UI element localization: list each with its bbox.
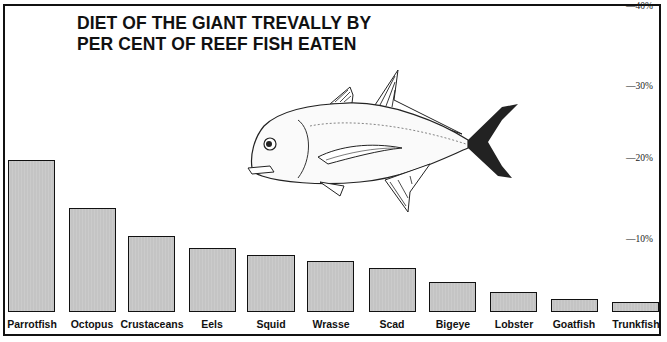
y-tick-40: —40% [626, 1, 653, 11]
y-tick-20: —20% [626, 153, 653, 163]
chart-title: DIET OF THE GIANT TREVALLY BY PER CENT O… [77, 13, 371, 55]
bar-parrotfish [8, 160, 55, 312]
y-tick-30: —30% [626, 81, 653, 91]
title-line-1: DIET OF THE GIANT TREVALLY BY [77, 13, 371, 34]
bar-octopus [69, 208, 116, 312]
bar-scad [369, 268, 416, 312]
label-trunkfish: Trunkfish [601, 318, 667, 330]
label-scad: Scad [357, 318, 427, 330]
bar-wrasse [307, 261, 354, 312]
bar-squid [247, 255, 295, 312]
bar-goatfish [551, 299, 598, 312]
bar-eels [189, 248, 236, 312]
bar-lobster [490, 292, 537, 312]
bar-trunkfish [612, 302, 659, 312]
title-line-2: PER CENT OF REEF FISH EATEN [77, 34, 371, 55]
bar-bigeye [429, 282, 476, 312]
giant-trevally-illustration [240, 60, 530, 220]
label-goatfish: Goatfish [539, 318, 609, 330]
bar-crustaceans [128, 236, 175, 312]
y-tick-10: —10% [626, 234, 653, 244]
label-bigeye: Bigeye [418, 318, 488, 330]
label-wrasse: Wrasse [296, 318, 366, 330]
